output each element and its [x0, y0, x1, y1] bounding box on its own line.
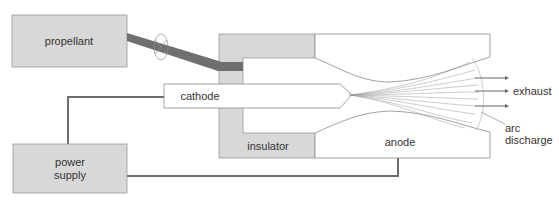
anode-upper: [315, 34, 490, 82]
anode-label: anode: [385, 136, 416, 148]
propellant-tank: propellant: [12, 15, 127, 67]
propellant-label: propellant: [45, 35, 93, 47]
power-supply: power supply: [13, 144, 127, 193]
arc-discharge-label-2: discharge: [505, 134, 553, 146]
anode-wire: [127, 158, 398, 176]
arcjet-diagram: propellant power supply insulator anode …: [0, 0, 559, 200]
arc-discharge-leader: [481, 112, 505, 124]
anode-lower: [315, 111, 490, 158]
exhaust-arrows: [475, 76, 509, 108]
cathode-wire: [68, 97, 164, 144]
power-supply-label-2: supply: [54, 169, 86, 181]
cathode-label: cathode: [180, 90, 219, 102]
cathode: cathode: [164, 84, 350, 108]
insulator-label: insulator: [247, 140, 289, 152]
arc-discharge-label-1: arc: [505, 122, 521, 134]
exhaust-label: exhaust: [513, 85, 552, 97]
power-supply-label-1: power: [55, 156, 85, 168]
